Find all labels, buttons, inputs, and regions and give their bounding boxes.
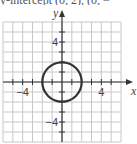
y-tick-label: −4 bbox=[45, 116, 58, 128]
x-axis-label: x bbox=[130, 84, 137, 98]
tick-labels: −444−4xy bbox=[16, 6, 137, 128]
y-axis-arrow-icon bbox=[59, 10, 65, 17]
x-tick-label: 4 bbox=[98, 86, 104, 98]
x-tick-label: −4 bbox=[16, 86, 29, 98]
coordinate-plane-chart: −444−4xy bbox=[0, 0, 137, 144]
y-axis-label: y bbox=[52, 6, 59, 20]
y-tick-label: 4 bbox=[52, 36, 58, 48]
